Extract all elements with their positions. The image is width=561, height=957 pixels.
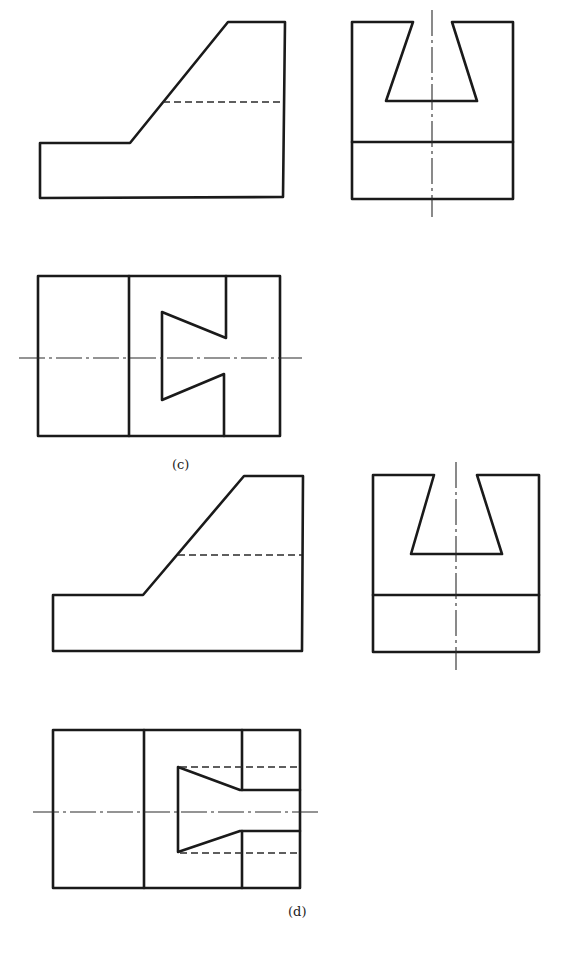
figure-d-front-view [53, 476, 303, 651]
figure-d-side-view [373, 462, 539, 670]
figure-c-front-view [40, 22, 285, 198]
figure-c-side-view [352, 10, 513, 217]
figure-d-label: (d) [288, 904, 306, 919]
orthographic-drawings [0, 0, 561, 957]
figure-c-top-view [19, 276, 302, 436]
figure-c-label: (c) [172, 457, 189, 472]
figure-d-top-view [33, 730, 318, 888]
